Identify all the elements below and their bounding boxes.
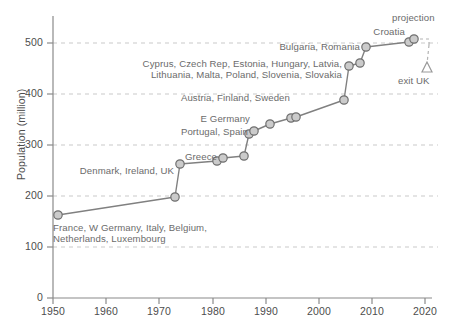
data-point-1981 xyxy=(219,154,227,162)
x-tick-label-1980: 1980 xyxy=(193,306,233,318)
y-tick-label-500: 500 xyxy=(17,37,43,49)
data-point-2013 xyxy=(410,35,418,43)
annotation-accession-2004-line1: Cyprus, Czech Rep, Estonia, Hungary, Lat… xyxy=(118,58,342,70)
x-tick-label-2000: 2000 xyxy=(299,306,339,318)
data-point-1951 xyxy=(54,211,62,219)
y-tick-label-300: 300 xyxy=(17,139,43,151)
data-point-1987 xyxy=(250,127,258,135)
annotation-e-germany: E Germany xyxy=(192,113,250,125)
annotation-founding-six-line1: France, W Germany, Italy, Belgium, xyxy=(53,222,207,234)
data-point-1990 xyxy=(266,120,274,128)
annotation-denmark-ireland-uk: Denmark, Ireland, UK xyxy=(68,165,174,177)
x-tick-label-1970: 1970 xyxy=(139,306,179,318)
x-tick-label-1990: 1990 xyxy=(246,306,286,318)
data-point-2007 xyxy=(362,43,370,51)
annotation-bulgaria-romania: Bulgaria, Romania xyxy=(262,41,360,53)
annotation-portugal-spain: Portugal, Spain xyxy=(172,126,248,138)
annotation-accession-2004-line2: Lithuania, Malta, Poland, Slovenia, Slov… xyxy=(118,69,342,81)
data-point-2004 xyxy=(345,62,353,70)
x-tick-label-1950: 1950 xyxy=(33,306,73,318)
annotation-croatia: Croatia xyxy=(357,26,405,38)
x-tick-label-2020: 2020 xyxy=(405,306,445,318)
x-tick-label-2010: 2010 xyxy=(352,306,392,318)
data-point-1995 xyxy=(292,113,300,121)
y-tick-label-400: 400 xyxy=(17,88,43,100)
data-point-2006 xyxy=(356,59,364,67)
annotation-greece: Greece xyxy=(171,151,217,163)
annotation-exit-uk: exit UK xyxy=(398,75,430,87)
projection-path xyxy=(414,39,432,72)
projection-drop-line xyxy=(427,45,429,64)
y-tick-label-0: 0 xyxy=(17,292,43,304)
y-tick-label-200: 200 xyxy=(17,190,43,202)
population-line-chart: Population (million) 500 400 300 200 100… xyxy=(0,0,456,330)
y-tick-label-100: 100 xyxy=(17,241,43,253)
data-point-1985 xyxy=(240,152,248,160)
annotation-founding-six-line2: Netherlands, Luxembourg xyxy=(53,233,166,245)
data-point-1972 xyxy=(171,193,179,201)
x-tick-label-1960: 1960 xyxy=(86,306,126,318)
y-axis-title: Population (million) xyxy=(16,89,28,180)
annotation-projection: projection xyxy=(392,12,435,24)
annotation-austria-finland-sweden: Austria, Finland, Sweden xyxy=(168,92,290,104)
data-point-2003 xyxy=(340,96,348,104)
